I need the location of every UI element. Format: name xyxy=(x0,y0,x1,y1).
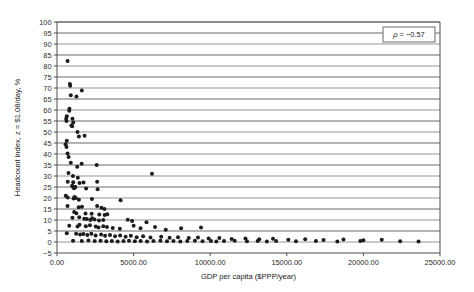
data-point xyxy=(121,239,125,243)
data-point xyxy=(80,205,84,209)
data-point xyxy=(66,180,70,184)
data-point xyxy=(94,233,98,237)
y-tick-labels-group: −505101520253035404550556065707580859095… xyxy=(39,18,51,258)
data-point xyxy=(69,161,73,165)
data-points-group xyxy=(64,59,421,244)
data-point xyxy=(119,198,123,202)
data-point xyxy=(135,235,139,239)
data-point xyxy=(196,236,200,240)
data-point xyxy=(256,239,260,243)
data-point xyxy=(148,236,152,240)
data-point xyxy=(380,238,384,242)
data-point xyxy=(133,239,137,243)
data-point xyxy=(139,239,143,243)
x-tick-label-25000: 25000.00 xyxy=(425,258,456,267)
tick-marks-group xyxy=(54,22,440,256)
data-point xyxy=(90,212,94,216)
scatter-chart-figure: −505101520253035404550556065707580859095… xyxy=(0,0,474,292)
data-point xyxy=(66,171,70,175)
data-point xyxy=(99,233,103,237)
data-point xyxy=(303,237,307,241)
data-point xyxy=(158,239,162,243)
y-tick-label-70: 70 xyxy=(43,84,51,93)
data-point xyxy=(89,232,93,236)
data-point xyxy=(130,219,134,223)
data-point xyxy=(93,239,97,243)
y-tick-label-0: 0 xyxy=(47,238,51,247)
data-point xyxy=(233,239,237,243)
data-point xyxy=(127,239,131,243)
data-point xyxy=(111,226,115,230)
data-point xyxy=(66,196,70,200)
data-point xyxy=(129,234,133,238)
data-point xyxy=(65,231,69,235)
data-point xyxy=(358,239,362,243)
x-tick-label-20000: 20000.00 xyxy=(348,258,379,267)
correlation-annotation-label: ρ = −0.57 xyxy=(392,30,424,39)
data-point xyxy=(84,211,88,215)
data-point xyxy=(74,211,78,215)
axes-group xyxy=(57,22,440,253)
data-point xyxy=(99,239,103,243)
data-point xyxy=(105,225,109,229)
y-tick-label-30: 30 xyxy=(43,172,51,181)
data-point xyxy=(322,238,326,242)
data-point xyxy=(65,119,69,123)
data-point xyxy=(101,224,105,228)
y-tick-label-35: 35 xyxy=(43,161,51,170)
data-point xyxy=(159,235,163,239)
y-tick-label-15: 15 xyxy=(43,205,51,214)
gridlines-group xyxy=(57,22,440,242)
data-point xyxy=(214,240,218,244)
y-tick-label-50: 50 xyxy=(43,128,51,137)
y-tick-label-75: 75 xyxy=(43,73,51,82)
data-point xyxy=(171,239,175,243)
data-point xyxy=(168,236,172,240)
x-tick-label-10000: 10000.00 xyxy=(195,258,226,267)
y-tick-label-20: 20 xyxy=(43,194,51,203)
y-tick-label-95: 95 xyxy=(43,29,51,38)
data-point xyxy=(77,134,81,138)
data-point xyxy=(274,239,278,243)
data-point xyxy=(185,239,189,243)
data-point xyxy=(95,180,99,184)
data-point xyxy=(335,240,339,244)
data-point xyxy=(71,239,75,243)
data-point xyxy=(116,240,120,244)
data-point xyxy=(95,204,99,208)
data-point xyxy=(97,213,101,217)
data-point xyxy=(70,117,74,121)
data-point xyxy=(118,227,122,231)
data-point xyxy=(110,239,114,243)
data-point xyxy=(164,228,168,232)
data-point xyxy=(126,218,130,222)
data-point xyxy=(286,238,290,242)
data-point xyxy=(265,240,269,244)
data-point xyxy=(67,224,71,228)
data-point xyxy=(152,239,156,243)
data-point xyxy=(150,172,154,176)
y-tick-label-80: 80 xyxy=(43,62,51,71)
data-point xyxy=(193,239,197,243)
data-point xyxy=(66,204,70,208)
data-point xyxy=(96,187,100,191)
x-tick-label-5000: 5000.00 xyxy=(120,258,147,267)
y-tick-label-55: 55 xyxy=(43,117,51,126)
y-tick-label-100: 100 xyxy=(39,18,51,27)
data-point xyxy=(67,155,71,159)
data-point xyxy=(74,95,78,99)
data-point xyxy=(97,218,101,222)
x-axis-title: GDP per capita ($PPP/year) xyxy=(201,272,297,281)
data-point xyxy=(86,238,90,242)
data-point xyxy=(71,180,75,184)
data-point xyxy=(201,239,205,243)
data-point xyxy=(101,218,105,222)
data-point xyxy=(113,234,117,238)
data-point xyxy=(70,216,74,220)
data-point xyxy=(341,238,345,242)
data-point xyxy=(80,239,84,243)
data-point xyxy=(95,163,99,167)
data-point xyxy=(199,225,203,229)
data-point xyxy=(75,165,79,169)
data-point xyxy=(145,240,149,244)
